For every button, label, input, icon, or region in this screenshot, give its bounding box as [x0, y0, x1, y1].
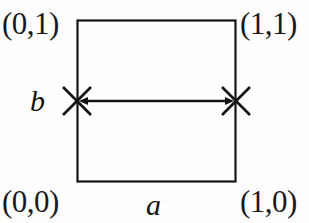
vector-label-b: b: [30, 86, 45, 116]
corner-label-top-right: (1,1): [240, 8, 297, 39]
figure-container: (0,1) (1,1) (0,0) (1,0) b a: [0, 0, 309, 223]
corner-label-bottom-left: (0,0): [2, 186, 59, 217]
corner-label-top-left: (0,1): [2, 8, 59, 39]
vector-label-a: a: [146, 190, 161, 220]
corner-label-bottom-right: (1,0): [240, 186, 297, 217]
